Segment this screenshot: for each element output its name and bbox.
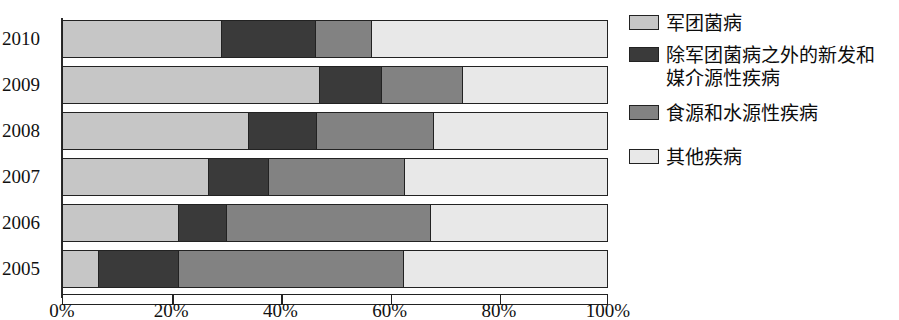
bar-segment-emerging	[319, 67, 382, 103]
bar-segment-other	[403, 251, 607, 287]
bar-segment-emerging	[178, 205, 226, 241]
bar-row: 2010	[62, 20, 608, 58]
bar-segment-foodwater	[226, 205, 430, 241]
bar-row: 2007	[62, 158, 608, 196]
bar-segment-other	[462, 67, 607, 103]
stacked-bar-chart: 201020092008200720062005 0%20%40%60%80%1…	[0, 0, 899, 320]
bar-segment-legionella	[63, 21, 221, 57]
x-axis-tick-label: 40%	[235, 300, 325, 320]
bar-segment-other	[371, 21, 607, 57]
bar-category-label: 2007	[0, 158, 56, 196]
bar-segment-emerging	[248, 113, 317, 149]
x-axis-tick-label: 60%	[345, 300, 435, 320]
bar-segment-foodwater	[268, 159, 403, 195]
legend-item[interactable]: 除军团菌病之外的新发和 媒介源性疾病	[629, 44, 875, 90]
bar-category-label: 2005	[0, 250, 56, 288]
plot-area: 201020092008200720062005 0%20%40%60%80%1…	[0, 0, 625, 320]
bar-category-label: 2006	[0, 204, 56, 242]
bar-category-label: 2009	[0, 66, 56, 104]
x-axis-tick-label: 80%	[454, 300, 544, 320]
bar-row: 2009	[62, 66, 608, 104]
bar-track	[62, 66, 608, 104]
bar-segment-other	[404, 159, 607, 195]
legend-swatch-icon	[629, 105, 659, 120]
legend-label: 食源和水源性疾病	[666, 102, 818, 125]
legend-item[interactable]: 其他疾病	[629, 146, 742, 169]
bar-segment-legionella	[63, 251, 98, 287]
bar-segment-foodwater	[316, 113, 432, 149]
legend-item[interactable]: 食源和水源性疾病	[629, 102, 818, 125]
bar-segment-legionella	[63, 205, 178, 241]
x-axis-tick-label: 20%	[126, 300, 216, 320]
bar-segment-emerging	[221, 21, 315, 57]
bar-segment-legionella	[63, 113, 248, 149]
bar-row: 2008	[62, 112, 608, 150]
bars-container: 201020092008200720062005	[62, 20, 608, 288]
x-axis-tick-label: 100%	[563, 300, 653, 320]
bar-segment-legionella	[63, 67, 319, 103]
bar-segment-foodwater	[178, 251, 403, 287]
legend-swatch-icon	[629, 149, 659, 164]
bar-segment-other	[430, 205, 607, 241]
legend-label: 其他疾病	[666, 146, 742, 169]
bar-track	[62, 20, 608, 58]
legend-swatch-icon	[629, 47, 659, 62]
bar-segment-emerging	[208, 159, 268, 195]
bar-segment-foodwater	[315, 21, 371, 57]
bar-row: 2005	[62, 250, 608, 288]
bar-category-label: 2008	[0, 112, 56, 150]
bar-row: 2006	[62, 204, 608, 242]
legend-label: 军团菌病	[666, 12, 742, 35]
legend: 军团菌病除军团菌病之外的新发和 媒介源性疾病食源和水源性疾病其他疾病	[629, 6, 899, 186]
bar-track	[62, 204, 608, 242]
bar-segment-foodwater	[381, 67, 462, 103]
x-axis-tick-labels: 0%20%40%60%80%100%	[0, 300, 625, 320]
bar-track	[62, 112, 608, 150]
bar-category-label: 2010	[0, 20, 56, 58]
legend-item[interactable]: 军团菌病	[629, 12, 742, 35]
bar-track	[62, 158, 608, 196]
bar-track	[62, 250, 608, 288]
legend-swatch-icon	[629, 15, 659, 30]
bar-segment-emerging	[98, 251, 178, 287]
legend-label: 除军团菌病之外的新发和 媒介源性疾病	[666, 44, 875, 90]
bar-segment-legionella	[63, 159, 208, 195]
x-axis-tick-label: 0%	[17, 300, 107, 320]
bar-segment-other	[433, 113, 607, 149]
